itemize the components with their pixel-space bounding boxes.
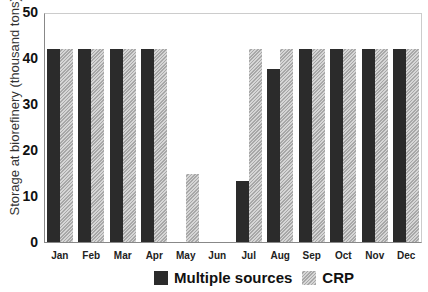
y-tick-label: 30 [14, 96, 38, 112]
y-tick-label: 40 [14, 50, 38, 66]
bar-crp-mar [123, 49, 136, 242]
plot-area [44, 13, 422, 243]
bar-crp-nov [375, 49, 388, 242]
x-tick-label: Dec [390, 250, 422, 261]
x-tick-label: Mar [107, 250, 139, 261]
x-tick-label: Jan [44, 250, 76, 261]
legend-swatch-solid [154, 271, 168, 285]
y-tick-label: 10 [14, 188, 38, 204]
legend: Multiple sources CRP [154, 269, 364, 286]
legend-item-crp: CRP [302, 269, 354, 286]
bar-multiple-sources-nov [362, 49, 375, 242]
bar-multiple-sources-feb [78, 49, 91, 242]
bar-multiple-sources-jul [236, 181, 249, 242]
bar-multiple-sources-apr [141, 49, 154, 242]
legend-label: Multiple sources [174, 269, 292, 286]
x-tick-label: Jul [233, 250, 265, 261]
bar-multiple-sources-sep [299, 49, 312, 242]
x-tick-label: Apr [138, 250, 170, 261]
bar-crp-feb [91, 49, 104, 242]
legend-item-multiple-sources: Multiple sources [154, 269, 292, 286]
bar-crp-oct [343, 49, 356, 242]
bar-multiple-sources-jan [47, 49, 60, 242]
bar-multiple-sources-mar [110, 49, 123, 242]
x-tick-label: Sep [296, 250, 328, 261]
x-tick-label: May [170, 250, 202, 261]
x-tick-label: Aug [264, 250, 296, 261]
x-tick-label: Feb [75, 250, 107, 261]
bar-multiple-sources-aug [267, 69, 280, 242]
legend-swatch-hatched [302, 271, 316, 285]
bar-multiple-sources-dec [393, 49, 406, 242]
bar-crp-jan [60, 49, 73, 242]
bar-multiple-sources-oct [330, 49, 343, 242]
bar-crp-dec [406, 49, 419, 242]
bar-crp-may [186, 174, 199, 242]
y-tick-label: 20 [14, 142, 38, 158]
x-tick-label: Oct [327, 250, 359, 261]
x-tick-label: Nov [359, 250, 391, 261]
y-tick-label: 0 [14, 234, 38, 250]
x-tick-label: Jun [201, 250, 233, 261]
bar-crp-aug [280, 49, 293, 242]
bar-crp-apr [154, 49, 167, 242]
bar-crp-sep [312, 49, 325, 242]
y-tick-label: 50 [14, 4, 38, 20]
bar-crp-jul [249, 49, 262, 242]
legend-label: CRP [322, 269, 354, 286]
